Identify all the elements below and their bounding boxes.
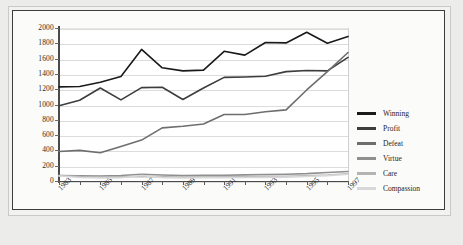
legend-item-label: Virtue <box>383 154 402 163</box>
series-line-winning <box>59 32 348 87</box>
legend-swatch-icon <box>357 127 376 130</box>
legend-item-label: Profit <box>383 124 400 133</box>
legend-item-label: Defeat <box>383 139 403 148</box>
legend-swatch-icon <box>357 187 376 190</box>
legend-item-profit[interactable]: Profit <box>357 121 457 136</box>
legend-item-care[interactable]: Care <box>357 166 457 181</box>
legend-item-compassion[interactable]: Compassion <box>357 181 457 196</box>
chart-legend: WinningProfitDefeatVirtueCareCompassion <box>357 106 457 196</box>
legend-item-virtue[interactable]: Virtue <box>357 151 457 166</box>
legend-item-label: Winning <box>383 109 409 118</box>
chart-figure: 2000180016001400120010008006004002000 19… <box>0 0 463 245</box>
legend-item-defeat[interactable]: Defeat <box>357 136 457 151</box>
legend-item-winning[interactable]: Winning <box>357 106 457 121</box>
legend-swatch-icon <box>357 112 376 115</box>
legend-swatch-icon <box>357 157 376 160</box>
series-line-defeat <box>59 52 348 152</box>
legend-item-label: Care <box>383 169 397 178</box>
legend-swatch-icon <box>357 172 376 175</box>
legend-item-label: Compassion <box>383 184 420 193</box>
legend-swatch-icon <box>357 142 376 145</box>
